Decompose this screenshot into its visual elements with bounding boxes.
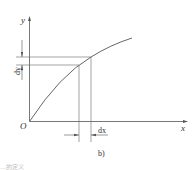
- function-curve: [30, 38, 133, 122]
- dy-label: dy: [13, 67, 22, 75]
- origin-label: O: [20, 121, 27, 131]
- subfigure-label: b): [98, 149, 105, 158]
- y-axis-arrow-icon: [28, 16, 31, 21]
- dy-arrow-top-icon: [21, 52, 23, 57]
- x-axis-label: x: [180, 123, 185, 133]
- derivative-diagram: y x O dx dy b) …的定义: [0, 0, 194, 170]
- bottom-caption-fragment: …的定义: [0, 163, 24, 170]
- dx-arrow-right-icon: [91, 134, 96, 136]
- dx-label: dx: [98, 126, 106, 135]
- dx-arrow-left-icon: [74, 134, 79, 136]
- y-axis-label: y: [20, 15, 25, 25]
